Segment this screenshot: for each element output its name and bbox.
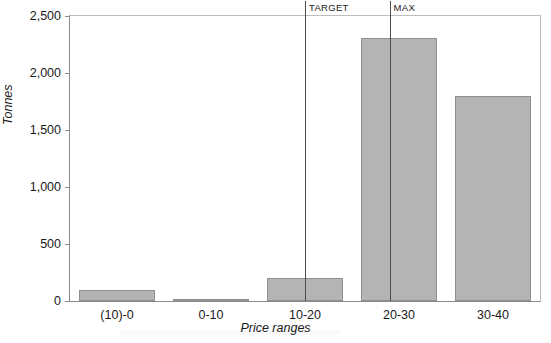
x-axis-tick-label: 30-40: [477, 309, 509, 322]
y-axis-tick-text: 0: [54, 294, 61, 308]
target-reference-label: TARGET: [305, 3, 349, 13]
x-axis-tick-label: 10-20: [289, 309, 321, 322]
target-reference-line: [305, 1, 306, 301]
x-axis-tick-label: 0-10: [198, 309, 223, 322]
y-axis-tick-text: 500: [40, 237, 61, 251]
bar-chart: 2,500 2,000 1,500 1,000 500 0: [0, 0, 551, 343]
y-axis-tick-text: 1,000: [30, 180, 61, 194]
y-axis-tick-text: 2,500: [30, 9, 61, 23]
bar-series-item: [79, 290, 154, 301]
y-axis-tick-label: 1,500: [30, 124, 70, 137]
y-axis-tick-mark: [65, 301, 70, 302]
y-axis-tick-label: 1,000: [30, 181, 70, 194]
bar-series-item: [361, 38, 436, 301]
y-axis-title: Tonnes: [2, 84, 15, 125]
x-axis-tick-label: 20-30: [383, 309, 415, 322]
plot-area: 2,500 2,000 1,500 1,000 500 0: [69, 15, 541, 302]
scan-artifact: [120, 330, 340, 335]
bar-series-item: [455, 96, 530, 301]
y-axis-tick-label: 2,000: [30, 67, 70, 80]
y-axis-tick-text: 1,500: [30, 123, 61, 137]
max-reference-label: MAX: [390, 3, 416, 13]
max-reference-line: [390, 1, 391, 301]
bar-series-item: [173, 299, 248, 301]
y-axis-tick-label: 2,500: [30, 10, 70, 23]
y-axis-tick-text: 2,000: [30, 66, 61, 80]
x-axis-tick-label: (10)-0: [100, 309, 133, 322]
